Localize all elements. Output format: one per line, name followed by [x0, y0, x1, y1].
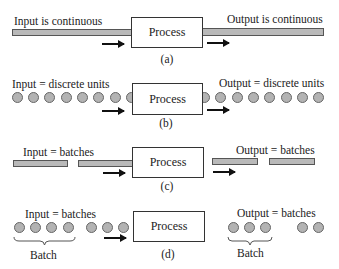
output-unit — [313, 92, 324, 103]
output-unit — [232, 92, 243, 103]
input-label-c: Input = batches — [23, 146, 94, 159]
input-unit — [63, 222, 74, 233]
caption-b: (b) — [146, 117, 186, 130]
output-batch-bar — [269, 158, 315, 165]
input-unit — [30, 222, 41, 233]
input-label-b: Input = discrete units — [12, 78, 110, 91]
brace-icon — [227, 236, 273, 246]
input-unit — [110, 92, 121, 103]
process-label-d: Process — [151, 219, 188, 234]
arrow-right-icon — [104, 237, 126, 239]
input-batch-bar — [13, 160, 68, 167]
arrow-right-icon — [102, 110, 124, 112]
input-unit — [118, 222, 129, 233]
caption-a: (a) — [147, 53, 187, 66]
output-unit — [281, 92, 292, 103]
arrow-right-icon — [207, 109, 229, 111]
batch-label-input: Batch — [30, 249, 57, 262]
output-label-d: Output = batches — [237, 207, 316, 220]
input-unit — [102, 222, 113, 233]
output-continuous-bar — [202, 28, 324, 36]
arrow-right-icon — [102, 43, 124, 45]
batch-label-output: Batch — [237, 247, 264, 260]
output-unit — [297, 92, 308, 103]
process-box-c: Process — [132, 147, 204, 178]
output-unit — [244, 222, 255, 233]
input-label-d: Input = batches — [25, 208, 96, 221]
input-unit — [14, 222, 25, 233]
output-unit — [260, 222, 271, 233]
process-box-b: Process — [132, 83, 203, 115]
input-unit — [61, 92, 72, 103]
process-label-b: Process — [149, 92, 186, 107]
input-unit — [93, 92, 104, 103]
input-continuous-bar — [12, 29, 134, 36]
caption-c: (c) — [147, 180, 187, 193]
input-label-a: Input is continuous — [14, 15, 102, 28]
input-unit — [86, 222, 97, 233]
process-label-c: Process — [150, 155, 187, 170]
output-unit — [297, 222, 308, 233]
arrow-right-icon — [103, 172, 125, 174]
output-unit — [264, 92, 275, 103]
output-label-c: Output = batches — [236, 144, 315, 157]
output-label-a: Output is continuous — [227, 13, 323, 26]
caption-d: (d) — [148, 248, 188, 261]
output-unit — [228, 222, 239, 233]
output-unit — [215, 92, 226, 103]
output-label-b: Output = discrete units — [219, 77, 324, 90]
arrow-right-icon — [207, 42, 229, 44]
input-unit — [77, 92, 88, 103]
input-unit — [44, 92, 55, 103]
input-batch-bar — [78, 160, 134, 167]
output-unit — [313, 222, 324, 233]
input-unit — [28, 92, 39, 103]
arrow-right-icon — [213, 171, 235, 173]
process-label-a: Process — [149, 25, 186, 40]
output-batch-bar — [212, 158, 258, 165]
process-box-d: Process — [133, 211, 205, 242]
output-unit — [248, 92, 259, 103]
input-unit — [12, 92, 23, 103]
brace-icon — [13, 236, 76, 246]
input-unit — [46, 222, 57, 233]
process-box-a: Process — [131, 17, 203, 48]
